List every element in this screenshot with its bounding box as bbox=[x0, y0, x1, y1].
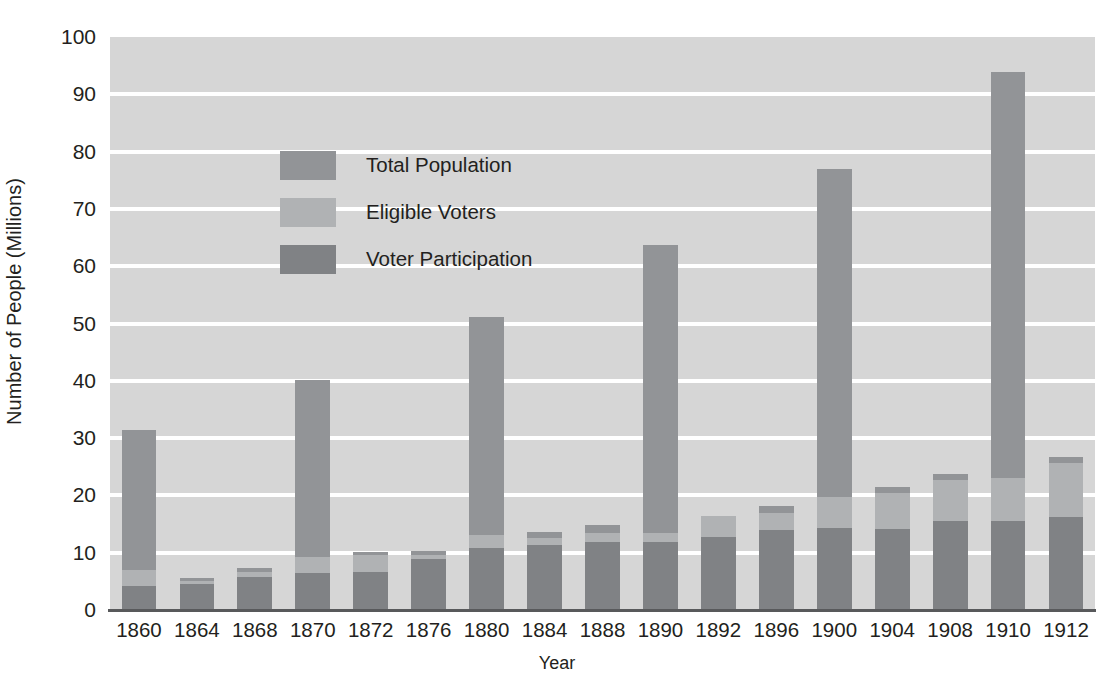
gridline bbox=[110, 92, 1095, 96]
bar-chart: Total PopulationEligible VotersVoter Par… bbox=[0, 0, 1114, 689]
x-axis-tick-label: 1860 bbox=[110, 618, 168, 642]
bar-segment-voter-participation bbox=[817, 528, 852, 610]
x-axis-label: Year bbox=[0, 653, 1114, 674]
bar-segment-voter-participation bbox=[643, 542, 678, 610]
legend-label: Voter Participation bbox=[366, 244, 532, 274]
bar-1884 bbox=[527, 532, 562, 610]
bar-segment-voter-participation bbox=[527, 545, 562, 610]
gridline bbox=[110, 322, 1095, 326]
bar-1880 bbox=[469, 317, 504, 610]
legend-swatch-icon bbox=[280, 151, 336, 180]
x-axis-tick-label: 1880 bbox=[458, 618, 516, 642]
bar-segment-voter-participation bbox=[759, 530, 794, 610]
bar-1912 bbox=[1049, 457, 1084, 610]
x-axis-tick-label: 1890 bbox=[631, 618, 689, 642]
x-axis-tick-label: 1884 bbox=[516, 618, 574, 642]
bar-segment-voter-participation bbox=[991, 521, 1026, 610]
legend-swatch-icon bbox=[280, 198, 336, 227]
gridline bbox=[110, 436, 1095, 440]
bar-segment-voter-participation bbox=[353, 572, 388, 610]
legend-item: Eligible Voters bbox=[280, 192, 610, 239]
bar-1876 bbox=[411, 551, 446, 610]
bar-segment-eligible-voters bbox=[817, 497, 852, 528]
bar-segment-eligible-voters bbox=[469, 535, 504, 548]
y-axis-tick-label: 0 bbox=[0, 599, 96, 620]
bar-1868 bbox=[237, 568, 272, 610]
legend-item: Voter Participation bbox=[280, 239, 610, 286]
bar-1890 bbox=[643, 245, 678, 610]
legend-swatch-icon bbox=[280, 245, 336, 274]
bar-1904 bbox=[875, 487, 910, 610]
bar-segment-voter-participation bbox=[180, 584, 215, 610]
x-axis-tick-label: 1900 bbox=[805, 618, 863, 642]
bar-segment-eligible-voters bbox=[701, 516, 736, 537]
plot-area: Total PopulationEligible VotersVoter Par… bbox=[110, 37, 1095, 610]
legend: Total PopulationEligible VotersVoter Par… bbox=[280, 145, 610, 286]
bar-1910 bbox=[991, 72, 1026, 610]
x-axis-tick-label: 1912 bbox=[1037, 618, 1095, 642]
x-axis-tick-label: 1910 bbox=[979, 618, 1037, 642]
bar-segment-eligible-voters bbox=[353, 555, 388, 572]
x-axis-tick-label: 1868 bbox=[226, 618, 284, 642]
bar-segment-voter-participation bbox=[469, 548, 504, 610]
bar-segment-eligible-voters bbox=[295, 557, 330, 572]
bar-segment-voter-participation bbox=[585, 542, 620, 610]
bar-segment-eligible-voters bbox=[933, 480, 968, 521]
bar-segment-voter-participation bbox=[875, 529, 910, 610]
bar-segment-eligible-voters bbox=[585, 533, 620, 542]
bar-segment-eligible-voters bbox=[1049, 463, 1084, 517]
x-axis-tick-label: 1876 bbox=[400, 618, 458, 642]
x-axis-tick-label: 1870 bbox=[284, 618, 342, 642]
bar-1892 bbox=[701, 516, 736, 610]
bar-segment-voter-participation bbox=[237, 577, 272, 610]
bar-1872 bbox=[353, 552, 388, 610]
x-axis-tick-label: 1872 bbox=[342, 618, 400, 642]
bar-segment-eligible-voters bbox=[527, 538, 562, 545]
bar-segment-eligible-voters bbox=[759, 513, 794, 531]
bar-segment-voter-participation bbox=[933, 521, 968, 610]
x-axis-line bbox=[108, 609, 1096, 612]
x-axis-tick-label: 1908 bbox=[921, 618, 979, 642]
legend-label: Total Population bbox=[366, 150, 512, 180]
bar-segment-voter-participation bbox=[122, 586, 157, 610]
x-axis-tick-label: 1864 bbox=[168, 618, 226, 642]
legend-label: Eligible Voters bbox=[366, 197, 496, 227]
x-axis-tick-label: 1896 bbox=[747, 618, 805, 642]
bar-segment-voter-participation bbox=[411, 559, 446, 610]
bar-segment-voter-participation bbox=[295, 573, 330, 610]
x-axis-tick-label: 1892 bbox=[689, 618, 747, 642]
bar-1864 bbox=[180, 578, 215, 610]
x-axis-tick-label: 1904 bbox=[863, 618, 921, 642]
bar-segment-eligible-voters bbox=[991, 478, 1026, 522]
bar-segment-voter-participation bbox=[701, 537, 736, 610]
bar-segment-eligible-voters bbox=[122, 570, 157, 585]
bar-1888 bbox=[585, 525, 620, 610]
x-axis-tick-label: 1888 bbox=[574, 618, 632, 642]
bar-1870 bbox=[295, 380, 330, 610]
bar-segment-eligible-voters bbox=[875, 493, 910, 529]
bar-1896 bbox=[759, 506, 794, 610]
bar-segment-eligible-voters bbox=[643, 533, 678, 542]
y-axis-label: Number of People (Millions) bbox=[3, 42, 26, 562]
legend-item: Total Population bbox=[280, 145, 610, 192]
bar-1860 bbox=[122, 430, 157, 610]
bar-1900 bbox=[817, 169, 852, 610]
gridline bbox=[110, 379, 1095, 383]
bar-1908 bbox=[933, 474, 968, 610]
bar-segment-voter-participation bbox=[1049, 517, 1084, 610]
